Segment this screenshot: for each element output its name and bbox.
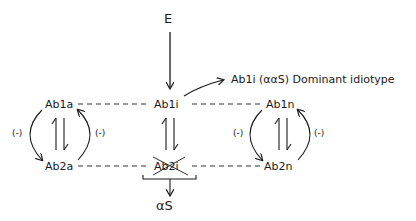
inhibition-label-left-outer: (-): [12, 129, 22, 138]
node-ab1n: Ab1n: [266, 99, 294, 110]
left-equilibrium-arrows: [52, 118, 68, 150]
right-inner-arc: [250, 110, 262, 160]
right-outer-arc: [298, 110, 310, 160]
node-ab1a: Ab1a: [45, 99, 73, 110]
input-label: E: [164, 12, 172, 25]
node-ab2a: Ab2a: [45, 161, 73, 172]
inhibition-label-right-inner: (-): [233, 129, 243, 138]
inhibition-label-right-outer: (-): [314, 129, 324, 138]
dominant-arrow: [184, 80, 223, 96]
node-ab1i: Ab1i: [154, 99, 179, 110]
inhibition-label-left-inner: (-): [95, 129, 105, 138]
dominant-idiotype-label: Ab1i (ααS) Dominant idiotype: [231, 74, 395, 85]
left-outer-arc: [30, 110, 42, 160]
node-ab2i-crossed: Ab2i: [154, 161, 179, 172]
output-label: αS: [156, 199, 173, 212]
idiotype-network-diagram: E Ab1i (ααS) Dominant idiotype Ab1a Ab1i…: [0, 0, 416, 221]
left-inner-arc: [78, 110, 90, 160]
right-equilibrium-arrows: [275, 118, 291, 150]
center-equilibrium-arrows: [162, 118, 178, 150]
output-bracket: [143, 175, 196, 179]
node-ab2n: Ab2n: [264, 161, 292, 172]
